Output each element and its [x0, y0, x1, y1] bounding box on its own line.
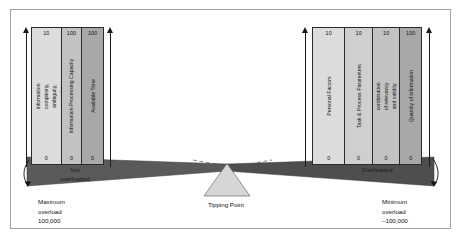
- column-label: Quality of information – information com…: [32, 82, 61, 111]
- beam-label-not-overloaded: Not overloaded: [46, 166, 104, 184]
- column-top-value: 100: [67, 28, 76, 36]
- caption-line-3: –100,000: [382, 216, 452, 226]
- caption-line-1: Tipping Point: [188, 200, 264, 210]
- column-top-value: 100: [406, 28, 415, 36]
- beam-label-line-1: Overloaded: [347, 166, 407, 175]
- column-top-value: 10: [326, 28, 332, 36]
- column-label-wrap: Available Time: [82, 36, 103, 155]
- right-measure-panel: 10 Personal Factors 0 10 Task & Process …: [312, 27, 422, 165]
- column-label-wrap: Quantity of information: [400, 36, 421, 155]
- column-label-wrap: Quality of information – information com…: [32, 36, 61, 155]
- caption-maximum-overload: Maximum overload 100,000: [38, 197, 108, 226]
- column-label: Task & Process Parameters: [355, 64, 363, 128]
- column-label-wrap: Quality of information – combination of …: [373, 36, 400, 155]
- column-label-wrap: Information Processing Capacity: [62, 36, 82, 155]
- right-column-task-and-process-parameters[interactable]: 10 Task & Process Parameters 0: [345, 28, 373, 164]
- caption-minimum-overload: Minimum overload –100,000: [382, 197, 452, 226]
- column-label: Quality of information – combination of …: [373, 82, 400, 110]
- caption-line-2: overload: [38, 207, 108, 217]
- column-bottom-value: 0: [70, 156, 73, 164]
- caption-tipping-point: Tipping Point: [188, 200, 264, 210]
- column-bottom-value: 0: [409, 156, 412, 164]
- column-top-value: 100: [88, 28, 97, 36]
- left-measure-panel: 10 Quality of information – information …: [31, 27, 104, 165]
- column-label: Personal Factors: [325, 76, 333, 115]
- right-column-quality-of-information[interactable]: 10 Quality of information – combination …: [373, 28, 401, 164]
- beam-label-line-2: overloaded: [46, 175, 104, 184]
- beam-label-line-1: Not: [46, 166, 104, 175]
- column-bottom-value: 0: [357, 156, 360, 164]
- right-column-quantity-of-information[interactable]: 100 Quantity of information 0: [400, 28, 421, 164]
- column-label-wrap: Personal Factors: [313, 36, 344, 155]
- caption-line-2: overload: [382, 207, 452, 217]
- caption-line-1: Maximum: [38, 197, 108, 207]
- left-column-available-time[interactable]: 100 Available Time 0: [82, 28, 103, 164]
- column-label-wrap: Task & Process Parameters: [345, 36, 372, 155]
- column-top-value: 10: [383, 28, 389, 36]
- column-top-value: 10: [43, 28, 49, 36]
- left-column-information-processing-capacity[interactable]: 100 Information Processing Capacity 0: [62, 28, 83, 164]
- column-label: Quantity of information: [407, 70, 415, 122]
- column-bottom-value: 0: [91, 156, 94, 164]
- caption-line-1: Minimum: [382, 197, 452, 207]
- column-label: Information Processing Capacity: [67, 59, 75, 134]
- column-label: Available Time: [89, 79, 97, 113]
- beam-label-overloaded: Overloaded: [347, 166, 407, 175]
- figure-root: 10 Quality of information – information …: [0, 0, 463, 240]
- column-bottom-value: 0: [385, 156, 388, 164]
- column-bottom-value: 0: [45, 156, 48, 164]
- column-bottom-value: 0: [327, 156, 330, 164]
- right-column-personal-factors[interactable]: 10 Personal Factors 0: [313, 28, 345, 164]
- left-column-quality-of-information[interactable]: 10 Quality of information – information …: [32, 28, 62, 164]
- column-top-value: 10: [356, 28, 362, 36]
- caption-line-3: 100,000: [38, 216, 108, 226]
